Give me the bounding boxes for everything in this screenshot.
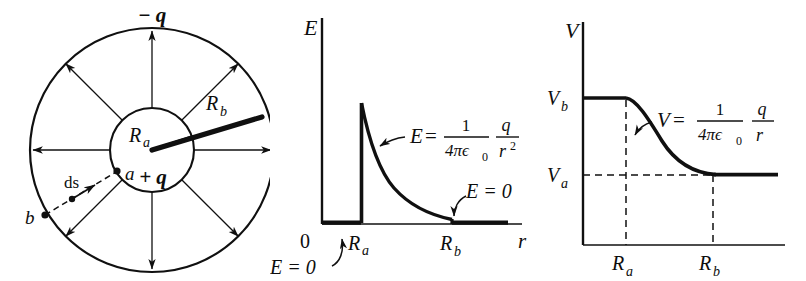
efield-tick-Ra: R a <box>347 232 369 258</box>
efield-tick-Ra-base: R <box>347 232 360 254</box>
efield-origin-label: 0 <box>300 230 310 252</box>
potential-formula-denominator-1: 4πϵ <box>698 125 723 144</box>
efield-y-axis-label: E <box>303 15 318 40</box>
efield-chart-panel: E r 0 R a R b E = 0 E = 0 E = 1 <box>270 0 540 281</box>
potential-formula-lhs: V <box>657 108 672 132</box>
sphere-diagram-panel: − q + q R a R b a b ds <box>0 0 270 281</box>
potential-Va-label-sub: a <box>561 176 568 191</box>
field-arrow-upleft <box>66 64 123 121</box>
efield-formula-numerator-1: 1 <box>462 116 471 135</box>
efield-formula-arrow <box>380 137 405 146</box>
efield-formula-denominator-1: 4πϵ <box>445 141 470 160</box>
efield-zero-right-arrow <box>454 196 466 216</box>
efield-inverse-square-curve <box>362 103 453 220</box>
potential-Vb-label-sub: b <box>561 99 568 114</box>
potential-formula-denominator-2: r <box>756 125 764 145</box>
potential-Vb-label-base: V <box>547 87 562 109</box>
point-b-dot <box>41 211 48 218</box>
efield-formula-equals: = <box>425 124 437 148</box>
potential-formula-numerator-2: q <box>758 99 767 119</box>
outer-radius-label: R b <box>205 92 227 119</box>
potential-tick-Rb-sub: b <box>713 264 720 279</box>
efield-formula-denominator-2-base: r <box>499 141 507 161</box>
potential-tick-Rb-base: R <box>698 252 711 274</box>
outer-radius-label-sub: b <box>220 104 227 119</box>
potential-formula: V = 1 4πϵ 0 q r <box>657 99 774 148</box>
efield-formula-denominator-2-exp: 2 <box>510 139 516 153</box>
field-arrow-downright <box>182 180 239 237</box>
potential-tick-Ra: R a <box>611 252 633 279</box>
inner-charge-label: + q <box>139 165 167 189</box>
inner-radius-label-base: R <box>128 124 141 146</box>
potential-Va-label: V a <box>547 164 568 191</box>
point-a-dot <box>113 167 120 174</box>
efield-formula-lhs: E <box>409 124 423 148</box>
efield-tick-Rb-base: R <box>439 232 452 254</box>
potential-tick-Ra-base: R <box>611 252 624 274</box>
outer-charge-label: − q <box>138 3 166 27</box>
efield-zero-right-annotation: E = 0 <box>465 180 512 202</box>
efield-x-axis-label: r <box>518 229 527 253</box>
potential-Va-label-base: V <box>547 164 562 186</box>
inner-radius-label-sub: a <box>143 135 150 150</box>
efield-zero-left-annotation: E = 0 <box>270 256 316 278</box>
potential-chart-svg: V V b V a R a R b V = 1 <box>540 0 806 281</box>
inner-radius-label: R a <box>128 124 150 150</box>
efield-formula-numerator-2: q <box>502 115 511 135</box>
sphere-diagram-svg: − q + q R a R b a b ds <box>0 0 270 281</box>
outer-radius-label-base: R <box>205 92 218 114</box>
efield-tick-Rb: R b <box>439 232 461 259</box>
potential-formula-denominator-1-sub: 0 <box>736 134 742 148</box>
potential-formula-equals: = <box>673 108 685 132</box>
efield-formula-denominator-1-sub: 0 <box>482 150 488 164</box>
ds-origin-dot <box>69 196 75 202</box>
efield-zero-left-arrow <box>332 239 343 266</box>
point-a-label: a <box>125 163 135 184</box>
potential-tick-Ra-sub: a <box>626 264 633 279</box>
potential-Vb-label: V b <box>547 87 568 114</box>
ds-label: ds <box>64 173 79 192</box>
efield-tick-Rb-sub: b <box>454 244 461 259</box>
potential-chart-panel: V V b V a R a R b V = 1 <box>540 0 806 281</box>
efield-formula: E = 1 4πϵ 0 q r 2 <box>409 115 519 164</box>
efield-tick-Ra-sub: a <box>362 243 369 258</box>
potential-formula-numerator-1: 1 <box>716 100 725 119</box>
efield-chart-svg: E r 0 R a R b E = 0 E = 0 E = 1 <box>270 0 540 281</box>
potential-tick-Rb: R b <box>698 252 720 279</box>
physics-figure: − q + q R a R b a b ds <box>0 0 806 281</box>
inner-radius-line <box>152 137 192 150</box>
point-b-label: b <box>25 207 35 228</box>
potential-y-axis-label: V <box>565 18 581 43</box>
